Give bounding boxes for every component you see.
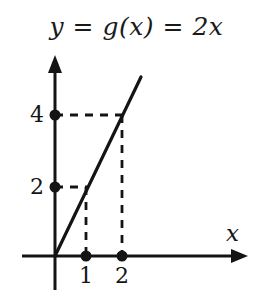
graph-figure: y = g(x) = 2x 4 2 1 2 x <box>0 0 273 305</box>
function-line-g <box>55 77 141 256</box>
x-tick-label-1: 1 <box>79 263 93 288</box>
point-marker-x1 <box>81 251 92 262</box>
point-marker-y4 <box>50 110 61 121</box>
y-tick-label-2: 2 <box>30 174 44 199</box>
x-axis-arrow-icon <box>231 249 248 263</box>
y-axis-arrow-icon <box>48 55 62 73</box>
y-tick-label-4: 4 <box>30 102 44 127</box>
coordinate-plot <box>0 0 273 305</box>
x-axis-label: x <box>226 220 239 246</box>
x-tick-label-2: 2 <box>115 263 129 288</box>
point-marker-x2 <box>117 251 128 262</box>
point-marker-y2 <box>50 182 61 193</box>
